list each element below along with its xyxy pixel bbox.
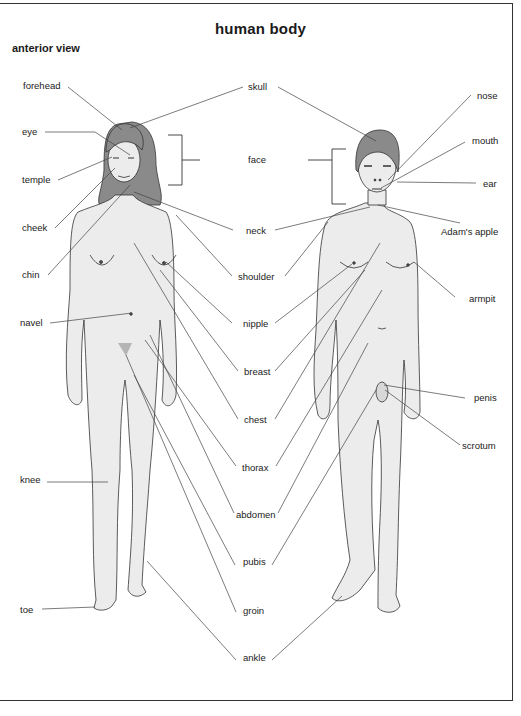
label-face: face [248,154,266,165]
male-figure [314,130,420,612]
female-figure [66,122,176,610]
label-thorax: thorax [242,462,268,473]
label-forehead: forehead [23,80,61,91]
label-chin: chin [22,269,39,280]
label-eye: eye [22,126,37,137]
label-nose: nose [477,90,498,101]
label-neck: neck [246,225,266,236]
label-navel: navel [20,317,43,328]
label-chest: chest [244,414,267,425]
label-armpit: armpit [469,293,495,304]
label-temple: temple [22,174,51,185]
label-cheek: cheek [22,222,47,233]
label-knee: knee [20,474,41,485]
label-ear: ear [483,178,497,189]
label-scrotum: scrotum [462,440,496,451]
label-skull: skull [248,81,267,92]
label-ankle: ankle [243,652,266,663]
label-pubis: pubis [243,556,266,567]
label-toe: toe [20,604,33,615]
label-groin: groin [243,605,264,616]
label-penis: penis [474,392,497,403]
label-mouth: mouth [472,135,498,146]
label-breast: breast [244,366,270,377]
label-nipple: nipple [243,318,268,329]
label-abdomen: abdomen [236,509,276,520]
label-shoulder: shoulder [238,271,274,282]
label-adams-apple: Adam's apple [441,226,498,237]
face-brackets [168,135,346,204]
